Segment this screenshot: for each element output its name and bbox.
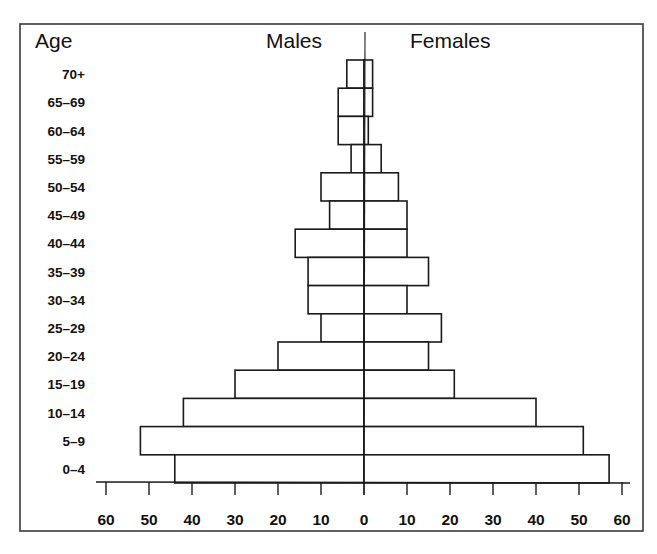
age-group-label: 40–44: [47, 236, 85, 251]
male-bar: [235, 370, 364, 398]
age-group-label: 30–34: [47, 293, 85, 308]
x-tick-label: 60: [97, 511, 114, 528]
age-group-label: 50–54: [47, 180, 85, 195]
male-bar: [295, 229, 364, 257]
age-group-label: 20–24: [47, 349, 85, 364]
age-group-label: 35–39: [47, 265, 85, 280]
male-bar: [278, 342, 364, 370]
female-bar: [364, 286, 407, 314]
male-bar: [338, 116, 364, 144]
age-axis-header: Age: [35, 29, 72, 52]
x-tick-label: 40: [183, 511, 200, 528]
x-axis-ticks: 6050403020100102030405060: [97, 482, 630, 528]
x-tick-label: 20: [441, 511, 458, 528]
male-bar: [308, 257, 364, 285]
x-tick-label: 30: [484, 511, 501, 528]
female-bar: [364, 173, 398, 201]
age-group-label: 5–9: [62, 434, 85, 449]
female-bar: [364, 314, 441, 342]
male-bar: [175, 455, 364, 483]
female-bar: [364, 427, 583, 455]
x-tick-label: 0: [360, 511, 369, 528]
x-tick-label: 10: [398, 511, 415, 528]
female-bar: [364, 145, 381, 173]
bars: [140, 60, 609, 483]
age-group-label: 55–59: [47, 152, 85, 167]
x-tick-label: 20: [269, 511, 286, 528]
females-header: Females: [410, 29, 491, 52]
x-tick-label: 40: [527, 511, 544, 528]
male-bar: [308, 286, 364, 314]
x-tick-label: 50: [570, 511, 587, 528]
female-bar: [364, 398, 536, 426]
x-axis-line: [96, 482, 630, 483]
female-bar: [364, 229, 407, 257]
males-header: Males: [266, 29, 322, 52]
female-bar: [364, 201, 407, 229]
female-bar: [364, 342, 429, 370]
age-group-label: 15–19: [47, 377, 85, 392]
age-group-label: 70+: [62, 67, 85, 82]
x-tick-label: 50: [140, 511, 157, 528]
male-bar: [351, 145, 364, 173]
male-bar: [330, 201, 364, 229]
age-group-label: 45–49: [47, 208, 85, 223]
x-tick-label: 60: [613, 511, 630, 528]
male-bar: [140, 427, 364, 455]
male-bar: [321, 314, 364, 342]
age-group-label: 65–69: [47, 95, 85, 110]
female-bar: [364, 455, 609, 483]
population-pyramid-chart: Age Males Females 70+65–6960–6455–5950–5…: [0, 0, 657, 554]
female-bar: [364, 257, 429, 285]
age-group-label: 10–14: [47, 406, 85, 421]
male-bar: [321, 173, 364, 201]
male-bar: [183, 398, 364, 426]
age-group-label: 25–29: [47, 321, 85, 336]
age-labels: 70+65–6960–6455–5950–5445–4940–4435–3930…: [47, 67, 85, 477]
x-tick-label: 30: [226, 511, 243, 528]
female-bar: [364, 370, 454, 398]
x-tick-label: 10: [312, 511, 329, 528]
male-bar: [338, 88, 364, 116]
male-bar: [347, 60, 364, 88]
age-group-label: 60–64: [47, 124, 85, 139]
age-group-label: 0–4: [62, 462, 85, 477]
